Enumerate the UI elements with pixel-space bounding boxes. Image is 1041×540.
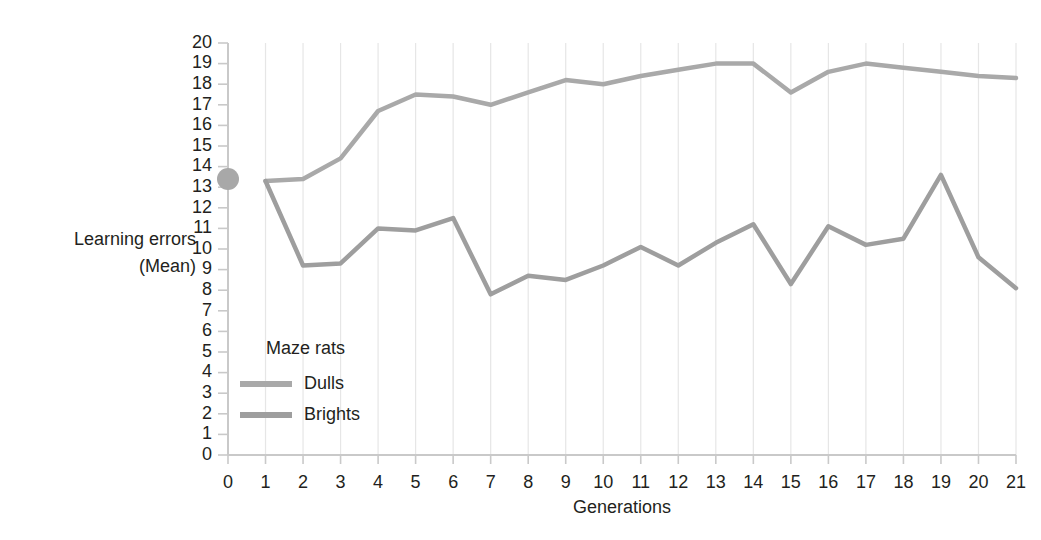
x-tick-label: 21 [1006,472,1026,492]
y-tick-label: 13 [192,176,212,196]
y-tick-label: 15 [192,135,212,155]
y-tick-label: 17 [192,94,212,114]
x-tick-label: 5 [411,472,421,492]
x-tick-label: 4 [373,472,383,492]
y-tick-label: 3 [202,382,212,402]
x-tick-label: 15 [781,472,801,492]
y-tick-label: 1 [202,423,212,443]
y-tick-label: 19 [192,52,212,72]
y-tick-label: 16 [192,114,212,134]
x-tick-label: 1 [261,472,271,492]
legend-label-dulls: Dulls [304,373,344,393]
x-tick-label: 6 [448,472,458,492]
x-tick-label: 17 [856,472,876,492]
x-axis: 0123456789101112131415161718192021 [223,455,1026,492]
chart-container: 01234567891011121314151617181920 0123456… [0,0,1041,540]
x-tick-label: 3 [336,472,346,492]
x-tick-label: 2 [298,472,308,492]
y-tick-label: 9 [202,258,212,278]
x-tick-label: 18 [893,472,913,492]
x-tick-label: 7 [486,472,496,492]
x-tick-label: 8 [523,472,533,492]
x-tick-label: 16 [818,472,838,492]
line-chart: 01234567891011121314151617181920 0123456… [0,0,1041,540]
y-tick-label: 7 [202,300,212,320]
y-tick-label: 0 [202,444,212,464]
legend: Maze rats DullsBrights [240,338,360,424]
x-tick-label: 19 [931,472,951,492]
y-tick-label: 14 [192,155,212,175]
x-axis-label: Generations [573,497,671,517]
x-tick-label: 11 [631,472,650,492]
legend-label-brights: Brights [304,404,360,424]
x-tick-label: 0 [223,472,233,492]
baseline-marker-gen0 [217,168,239,190]
legend-title: Maze rats [266,338,345,358]
y-tick-label: 8 [202,279,212,299]
y-tick-label: 11 [193,217,212,237]
y-tick-label: 6 [202,320,212,340]
baseline-marker-group [217,168,239,190]
x-tick-label: 12 [668,472,688,492]
x-tick-label: 9 [561,472,571,492]
x-tick-label: 10 [593,472,613,492]
y-tick-label: 12 [192,197,212,217]
x-tick-label: 20 [968,472,988,492]
x-gridlines [228,43,1016,455]
y-tick-label: 2 [202,403,212,423]
x-tick-label: 14 [743,472,763,492]
x-tick-label: 13 [706,472,726,492]
y-tick-label: 20 [192,32,212,52]
y-tick-label: 5 [202,341,212,361]
y-axis-label-line2: (Mean) [139,256,196,276]
y-axis-label-line1: Learning errors [74,229,196,249]
y-axis: 01234567891011121314151617181920 [192,32,228,464]
y-tick-label: 4 [202,361,212,381]
y-tick-label: 18 [192,73,212,93]
